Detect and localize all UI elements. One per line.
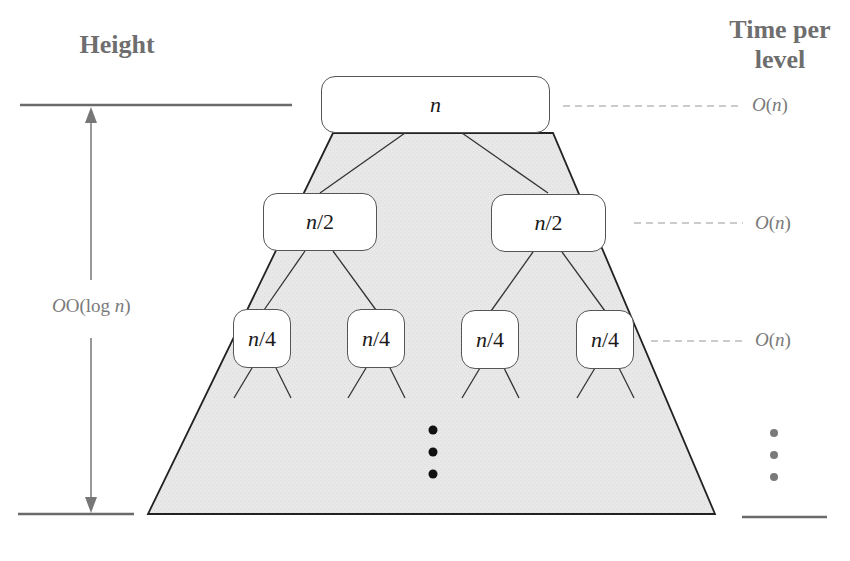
node-rest: /4: [259, 326, 276, 352]
node-rest: /4: [487, 327, 504, 353]
height-label-prefix: O(log: [66, 295, 115, 316]
level-1-cost: O(n): [755, 212, 791, 234]
tree-node-level2-2: n/4: [347, 309, 405, 368]
node-rest: /2: [545, 210, 562, 236]
cost-var: n: [775, 329, 785, 350]
cost-suffix: ): [782, 94, 788, 115]
tree-node-level2-4: n/4: [576, 310, 634, 369]
node-var: n: [362, 326, 373, 352]
height-label-suffix: ): [124, 295, 130, 316]
node-var: n: [430, 92, 441, 118]
time-per-level-header: Time per level: [712, 15, 848, 75]
big-o-symbol: O: [52, 295, 66, 316]
time-continuation-dots: [770, 429, 778, 481]
node-var: n: [248, 326, 259, 352]
node-rest: /4: [373, 326, 390, 352]
tree-node-level1-right: n/2: [491, 194, 606, 252]
big-o-symbol: O: [752, 94, 766, 115]
tree-node-level1-left: n/2: [263, 193, 377, 251]
cost-var: n: [772, 94, 782, 115]
height-label-var: n: [115, 295, 125, 316]
cost-suffix: ): [785, 212, 791, 233]
height-header: Height: [52, 30, 182, 60]
tree-node-level2-1: n/4: [233, 309, 291, 368]
time-per-level-header-line2: level: [712, 45, 848, 75]
node-var: n: [534, 210, 545, 236]
node-rest: /4: [602, 327, 619, 353]
time-per-level-header-line1: Time per: [712, 15, 848, 45]
tree-node-level2-3: n/4: [461, 310, 519, 369]
tree-node-root: n: [321, 76, 550, 133]
level-2-cost: O(n): [755, 329, 791, 351]
node-var: n: [306, 209, 317, 235]
cost-suffix: ): [785, 329, 791, 350]
node-var: n: [476, 327, 487, 353]
level-0-cost: OO((n): [752, 94, 788, 116]
height-label: OO(log n): [52, 295, 131, 317]
cost-var: n: [775, 212, 785, 233]
node-var: n: [591, 327, 602, 353]
node-rest: /2: [317, 209, 334, 235]
big-o-symbol: O: [755, 212, 769, 233]
big-o-symbol: O: [755, 329, 769, 350]
